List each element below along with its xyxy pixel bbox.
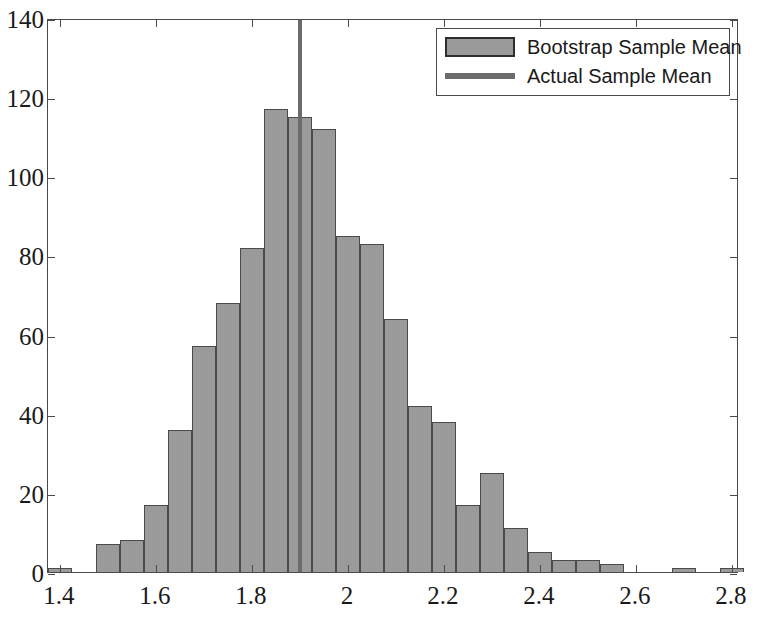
y-axis-tick-right bbox=[730, 495, 737, 496]
x-axis-tick-top bbox=[636, 20, 637, 27]
x-axis-tick-label: 1.4 bbox=[43, 583, 74, 608]
x-axis-tick-label: 2.8 bbox=[715, 583, 746, 608]
y-axis-tick-right bbox=[730, 99, 737, 100]
y-axis-tick bbox=[48, 416, 55, 417]
histogram-bar bbox=[552, 560, 576, 572]
x-axis-tick-top bbox=[60, 20, 61, 27]
x-axis-tick-label: 2.4 bbox=[523, 583, 554, 608]
y-axis-tick-label: 120 bbox=[0, 86, 44, 111]
histogram-bar bbox=[408, 406, 432, 572]
y-axis-tick bbox=[48, 495, 55, 496]
x-axis-tick bbox=[60, 565, 61, 572]
x-axis-tick bbox=[636, 565, 637, 572]
histogram-bar bbox=[120, 540, 144, 572]
histogram-bar bbox=[168, 430, 192, 572]
legend-label-actual-sample-mean: Actual Sample Mean bbox=[527, 66, 712, 86]
y-axis-tick-right bbox=[730, 257, 737, 258]
histogram-bar bbox=[144, 505, 168, 572]
y-axis-tick bbox=[48, 337, 55, 338]
y-axis-tick-label: 80 bbox=[0, 244, 44, 269]
x-axis-tick-top bbox=[540, 20, 541, 27]
histogram-bar bbox=[336, 236, 360, 572]
actual-sample-mean-line bbox=[298, 20, 302, 572]
y-axis-tick bbox=[48, 257, 55, 258]
y-axis-tick-label: 60 bbox=[0, 324, 44, 349]
y-axis-tick-label: 140 bbox=[0, 7, 44, 32]
legend-swatch-line-icon bbox=[445, 73, 515, 79]
x-axis-tick-top bbox=[156, 20, 157, 27]
y-axis-tick-right bbox=[730, 337, 737, 338]
legend-swatch-box-icon bbox=[445, 37, 515, 57]
y-axis-tick bbox=[48, 99, 55, 100]
histogram-bar bbox=[480, 473, 504, 572]
y-axis-tick-right bbox=[730, 178, 737, 179]
histogram-bar bbox=[456, 505, 480, 572]
x-axis-tick bbox=[348, 565, 349, 572]
histogram-bar bbox=[672, 568, 696, 572]
x-axis-tick-top bbox=[444, 20, 445, 27]
y-axis-tick-label: 100 bbox=[0, 165, 44, 190]
legend-item-actual-sample-mean: Actual Sample Mean bbox=[445, 62, 712, 90]
x-axis-tick bbox=[156, 565, 157, 572]
y-axis-tick-label: 20 bbox=[0, 482, 44, 507]
chart-legend: Bootstrap Sample Mean Actual Sample Mean bbox=[436, 28, 730, 96]
y-axis-tick bbox=[48, 178, 55, 179]
x-axis-tick-top bbox=[348, 20, 349, 27]
x-axis-tick bbox=[252, 565, 253, 572]
x-axis-tick-label: 1.8 bbox=[235, 583, 266, 608]
histogram-bar bbox=[600, 564, 624, 572]
x-axis-tick bbox=[540, 565, 541, 572]
y-axis-tick-label: 0 bbox=[0, 561, 44, 586]
x-axis-tick-label: 1.6 bbox=[139, 583, 170, 608]
histogram-bar bbox=[360, 244, 384, 572]
histogram-bar bbox=[96, 544, 120, 572]
histogram-bar bbox=[192, 346, 216, 572]
histogram-bar bbox=[432, 422, 456, 572]
x-axis-tick-top bbox=[732, 20, 733, 27]
x-axis-tick-label: 2 bbox=[341, 583, 354, 608]
x-axis-tick bbox=[444, 565, 445, 572]
x-axis-tick-label: 2.6 bbox=[619, 583, 650, 608]
plot-area bbox=[47, 19, 738, 573]
y-axis-tick-label: 40 bbox=[0, 403, 44, 428]
histogram-bar bbox=[312, 129, 336, 572]
x-axis-tick-label: 2.2 bbox=[427, 583, 458, 608]
y-axis-tick bbox=[48, 20, 55, 21]
legend-item-bootstrap-sample-mean: Bootstrap Sample Mean bbox=[445, 33, 742, 61]
histogram-bar bbox=[504, 528, 528, 572]
y-axis-tick bbox=[48, 574, 55, 575]
histogram-bar bbox=[240, 248, 264, 572]
histogram-bar bbox=[216, 303, 240, 572]
histogram-bar bbox=[576, 560, 600, 572]
x-axis-tick bbox=[732, 565, 733, 572]
y-axis-tick-right bbox=[730, 574, 737, 575]
histogram-bar bbox=[384, 319, 408, 572]
legend-label-bootstrap-sample-mean: Bootstrap Sample Mean bbox=[527, 37, 742, 57]
histogram-bar bbox=[264, 109, 288, 572]
histogram-chart: 020406080100120140 1.41.61.822.22.42.62.… bbox=[0, 0, 758, 623]
x-axis-tick-top bbox=[252, 20, 253, 27]
y-axis-tick-right bbox=[730, 416, 737, 417]
